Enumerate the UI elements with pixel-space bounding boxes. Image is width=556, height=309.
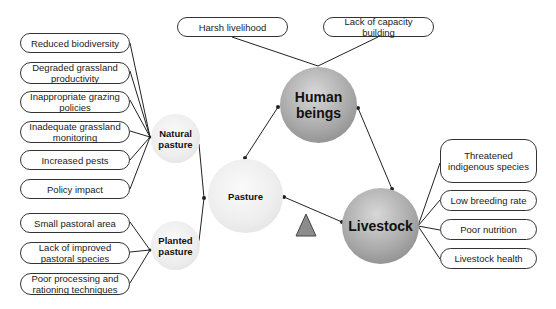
factor-threatened-indigenous-species: Threatened indigenous species	[440, 139, 537, 183]
factor-increased-pests: Increased pests	[20, 150, 130, 170]
factor-lack-of-improved-pastoral-species: Lack of improved pastoral species	[20, 242, 130, 264]
factor-small-pastoral-area: Small pastoral area	[20, 213, 130, 233]
factor-reduced-biodiversity: Reduced biodiversity	[20, 33, 130, 53]
factor-policy-impact: Policy impact	[20, 179, 130, 199]
factor-poor-processing-rationing: Poor processing and rationing techniques	[20, 273, 130, 295]
factor-livestock-health: Livestock health	[440, 248, 537, 269]
node-natural-pasture-line2: pasture	[158, 139, 192, 150]
node-livestock-label: Livestock	[348, 218, 413, 234]
factor-lack-of-capacity-building: Lack of capacity building	[323, 17, 434, 37]
factor-inadequate-grassland-monitoring: Inadequate grassland monitoring	[20, 121, 130, 143]
factor-harsh-livelihood: Harsh livelihood	[177, 17, 288, 37]
node-pasture-label: Pasture	[228, 191, 263, 202]
triangle-marker-icon	[296, 214, 316, 236]
node-pasture: Pasture	[208, 159, 283, 233]
factor-poor-nutrition: Poor nutrition	[440, 219, 537, 240]
factor-degraded-grassland-productivity: Degraded grassland productivity	[20, 62, 130, 84]
node-human-beings-line2: beings	[296, 105, 341, 121]
factor-low-breeding-rate: Low breeding rate	[440, 190, 537, 211]
node-human-beings: Human beings	[280, 67, 357, 143]
node-human-beings-line1: Human	[295, 89, 342, 105]
node-natural-pasture: Natural pasture	[151, 114, 200, 163]
node-planted-pasture: Planted pasture	[151, 221, 200, 270]
node-natural-pasture-line1: Natural	[159, 128, 192, 139]
node-planted-pasture-line2: pasture	[158, 246, 192, 257]
factor-inappropriate-grazing-policies: Inappropriate grazing policies	[20, 91, 130, 113]
node-livestock: Livestock	[342, 188, 419, 264]
node-planted-pasture-line1: Planted	[158, 235, 192, 246]
